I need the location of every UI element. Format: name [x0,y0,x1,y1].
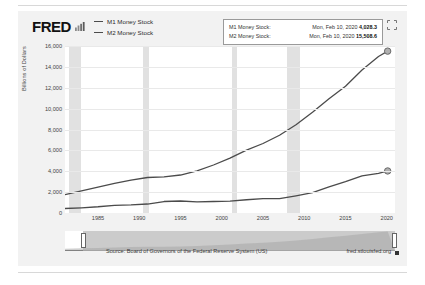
legend-label-m1: M1 Money Stock [107,18,153,25]
x-axis-tick-label: 1995 [174,215,186,221]
gridline [65,150,395,151]
y-axis-tick-label: 12,000 [45,85,62,91]
x-axis-tick-label: 2020 [381,215,393,221]
x-axis-ticks: 19851990199520002005201020152020 [65,215,395,225]
fred-logo: FRED [32,19,71,34]
gridline [65,109,395,110]
y-axis-tick-label: 8,000 [48,127,62,133]
gridline [65,46,395,47]
x-axis-tick-label: 2015 [339,215,351,221]
gridline [65,130,395,131]
legend-item-m1[interactable]: M1 Money Stock [94,17,153,26]
slider-handle-left[interactable] [81,233,86,248]
y-axis-tick-label: 16,000 [45,43,62,49]
tooltip-row-m2: M2 Money Stock: Mon, Feb 10, 2020 15,508… [229,32,377,41]
page-divider-top [18,5,407,6]
tooltip-row-m1: M1 Money Stock: Mon, Feb 10, 2020 4,028.… [229,23,377,32]
x-axis-tick-label: 2000 [216,215,228,221]
legend-line-icon-m2 [94,32,103,33]
tooltip-date-m1: Mon, Feb 10, 2020 [312,24,357,30]
legend-line-icon-m1 [94,21,103,22]
tooltip-value-m1: Mon, Feb 10, 2020 4,028.3 [312,23,377,32]
tooltip-label-m2: M2 Money Stock: [229,32,271,41]
y-axis-tick-label: 6,000 [48,147,62,153]
site-url[interactable]: fred.stlouisfed.org [347,248,391,254]
source-attribution: Source: Board of Governors of the Federa… [106,248,267,254]
chart-legend: M1 Money Stock M2 Money Stock [94,17,153,39]
series-line-m2 [65,51,388,195]
tooltip-number-m1: 4,028.3 [359,24,377,30]
gridline [65,67,395,68]
expand-fullscreen-icon[interactable] [387,20,397,30]
tooltip-value-m2: Mon, Feb 10, 2020 15,508.6 [309,32,377,41]
x-axis-tick-label: 1985 [92,215,104,221]
page-divider-bottom [18,272,407,273]
series-line-m1 [65,171,388,209]
gridline [65,88,395,89]
chart-footer: Source: Board of Governors of the Federa… [18,248,407,260]
tooltip-date-m2: Mon, Feb 10, 2020 [309,33,354,39]
slider-handle-right[interactable] [392,233,397,248]
tooltip-label-m1: M1 Money Stock: [229,23,271,32]
x-axis-tick-label: 2005 [257,215,269,221]
gridline [65,192,395,193]
x-axis-tick-label: 1990 [133,215,145,221]
y-axis-label: Billions of Dollars [21,81,27,91]
y-axis-tick-label: 2,000 [48,189,62,195]
tooltip-number-m2: 15,508.6 [356,33,377,39]
legend-item-m2[interactable]: M2 Money Stock [94,28,153,37]
y-axis-tick-label: 14,000 [45,64,62,70]
bar-chart-icon [75,22,86,31]
legend-label-m2: M2 Money Stock [107,29,153,36]
series-end-marker-m2[interactable] [384,48,390,54]
gridline [65,171,395,172]
chart-tooltip: M1 Money Stock: Mon, Feb 10, 2020 4,028.… [223,19,383,45]
plot-container: Billions of Dollars 02,0004,0006,0008,00… [18,41,407,226]
y-axis-tick-label: 10,000 [45,106,62,112]
y-axis-tick-label: 0 [59,210,62,216]
x-axis-tick-label: 2010 [298,215,310,221]
plot-area[interactable] [65,46,395,213]
y-axis-ticks: 02,0004,0006,0008,00010,00012,00014,0001… [32,41,64,213]
y-axis-tick-label: 4,000 [48,168,62,174]
fred-chart-screenshot: FRED M1 Money Stock M2 Money Stock [0,0,425,285]
footer-marker-icon [395,251,399,255]
chart-card: FRED M1 Money Stock M2 Money Stock [18,11,407,266]
